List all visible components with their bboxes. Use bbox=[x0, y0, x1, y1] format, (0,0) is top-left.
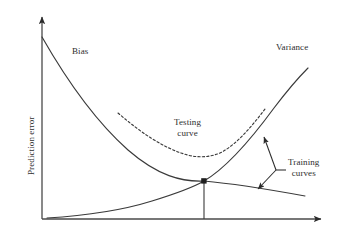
chart-canvas bbox=[0, 0, 341, 234]
training-arrow-to-bias bbox=[258, 170, 276, 189]
training-curves-label-line1: Training bbox=[288, 157, 319, 168]
testing-curve-label-line2: curve bbox=[174, 128, 201, 139]
variance-curve bbox=[47, 68, 308, 218]
variance-curve-label: Variance bbox=[276, 42, 308, 53]
bias-variance-tradeoff-figure: Prediction error Bias Variance Testing c… bbox=[0, 0, 341, 234]
testing-curve-label: Testing curve bbox=[174, 117, 201, 139]
testing-curve-label-line1: Testing bbox=[174, 117, 201, 128]
training-arrow-to-variance bbox=[264, 137, 276, 170]
training-curves-label-line2: curves bbox=[288, 168, 319, 179]
y-axis-label: Prediction error bbox=[26, 117, 37, 175]
bias-curve-label: Bias bbox=[72, 46, 88, 57]
intersection-point-marker bbox=[201, 178, 206, 183]
training-curves-label: Training curves bbox=[288, 157, 319, 179]
